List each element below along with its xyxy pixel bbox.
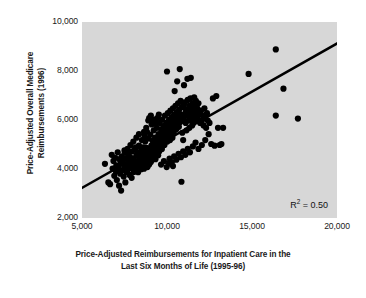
x-axis-tick-label: 10,000 bbox=[137, 221, 197, 231]
data-point bbox=[102, 161, 108, 167]
data-point bbox=[144, 129, 150, 135]
data-point bbox=[187, 149, 193, 155]
data-point bbox=[220, 125, 226, 131]
data-point bbox=[295, 115, 301, 121]
data-point bbox=[188, 75, 194, 81]
data-point bbox=[130, 138, 136, 144]
data-point bbox=[146, 115, 152, 121]
data-point bbox=[114, 177, 120, 183]
data-point bbox=[180, 137, 186, 143]
y-axis-tick-label: 8,000 bbox=[34, 65, 78, 75]
data-point bbox=[122, 149, 128, 155]
x-axis-tick-label: 15,000 bbox=[222, 221, 282, 231]
data-point bbox=[133, 144, 139, 150]
data-point bbox=[164, 68, 170, 74]
scatter-chart-figure: Price-Adjusted Overall Medicare Reimburs… bbox=[0, 0, 366, 298]
x-axis-tick-label: 5,000 bbox=[52, 221, 112, 231]
x-axis-tick-labels: 5,00010,00015,00020,000 bbox=[82, 221, 337, 235]
data-point bbox=[174, 78, 180, 84]
data-point bbox=[218, 141, 224, 147]
data-point bbox=[192, 139, 198, 145]
data-point bbox=[273, 112, 279, 118]
data-point bbox=[206, 131, 212, 137]
data-point bbox=[213, 93, 219, 99]
data-point bbox=[136, 131, 142, 137]
data-point bbox=[178, 179, 184, 185]
data-point bbox=[246, 71, 252, 77]
data-point bbox=[273, 46, 279, 52]
data-point bbox=[177, 66, 183, 72]
x-axis-tick-label: 20,000 bbox=[307, 221, 366, 231]
data-point bbox=[195, 100, 201, 106]
data-point bbox=[206, 120, 212, 126]
x-axis-title: Price-Adjusted Reimbursements for Inpati… bbox=[0, 249, 366, 273]
data-point bbox=[129, 175, 135, 181]
data-point bbox=[172, 88, 178, 94]
data-point bbox=[122, 179, 128, 185]
plot-area: R2 = 0.50 bbox=[82, 22, 337, 218]
plot-canvas bbox=[82, 22, 337, 218]
data-point bbox=[202, 137, 208, 143]
data-point bbox=[280, 86, 286, 92]
data-point bbox=[107, 181, 113, 187]
data-point bbox=[118, 187, 124, 193]
x-axis-title-line1: Price-Adjusted Reimbursements for Inpati… bbox=[75, 250, 290, 259]
y-axis-tick-label: 6,000 bbox=[34, 114, 78, 124]
data-point bbox=[181, 82, 187, 88]
data-point bbox=[149, 121, 155, 127]
data-point bbox=[170, 163, 176, 169]
y-axis-tick-label: 4,000 bbox=[34, 163, 78, 173]
x-axis-title-line2: Last Six Months of Life (1995-96) bbox=[0, 261, 366, 273]
r-squared-value: = 0.50 bbox=[303, 200, 328, 210]
data-point bbox=[156, 112, 162, 118]
r-squared-exponent: 2 bbox=[297, 198, 301, 205]
r-squared-annotation: R2 = 0.50 bbox=[290, 198, 328, 210]
y-axis-tick-label: 10,000 bbox=[34, 16, 78, 26]
